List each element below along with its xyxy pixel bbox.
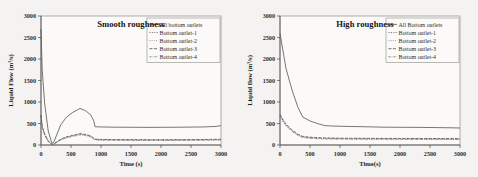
- legend-label: All bottom outlets: [160, 22, 204, 28]
- x-tick-label: 1500: [125, 150, 137, 157]
- y-tick-label: 2000: [24, 55, 36, 62]
- y-axis-title: Liquid flow (m³/s): [246, 55, 254, 106]
- x-tick-label: 2000: [394, 150, 406, 157]
- y-tick-label: 3000: [24, 12, 36, 19]
- chart-panel-smooth: 0500100015002000250030000500100015002000…: [0, 0, 239, 177]
- x-tick-label: 0: [39, 150, 42, 157]
- x-tick-label: 500: [305, 150, 314, 157]
- chart-panel-high: 0500100015002000250030000500100015002000…: [239, 0, 478, 177]
- x-axis-title: Time(s): [359, 160, 381, 168]
- high-roughness-chart: 0500100015002000250030000500100015002000…: [239, 0, 478, 177]
- y-tick-label: 0: [33, 141, 36, 148]
- legend-label: Bottom outlet-3: [160, 46, 198, 52]
- legend-label: Bottom outlet-1: [399, 30, 437, 36]
- x-tick-label: 2500: [424, 150, 436, 157]
- y-tick-label: 1500: [263, 77, 275, 84]
- legend-label: Bottom outlet-3: [399, 46, 437, 52]
- legend-label: Bottom outlet-4: [399, 54, 437, 60]
- y-tick-label: 3000: [263, 12, 275, 19]
- x-tick-label: 3000: [215, 150, 227, 157]
- x-tick-label: 0: [278, 150, 281, 157]
- y-tick-label: 1000: [263, 98, 275, 105]
- x-tick-label: 500: [66, 150, 75, 157]
- legend-label: All Bottom outlets: [399, 22, 444, 28]
- x-tick-label: 1500: [364, 150, 376, 157]
- legend-label: Bottom outlet-1: [160, 30, 198, 36]
- legend-label: Bottom outlet-2: [160, 38, 198, 44]
- figure-container: 0500100015002000250030000500100015002000…: [0, 0, 478, 177]
- y-tick-label: 0: [272, 141, 275, 148]
- y-tick-label: 2000: [263, 55, 275, 62]
- legend-label: Bottom outlet-4: [160, 54, 198, 60]
- x-tick-label: 1000: [334, 150, 346, 157]
- y-tick-label: 1500: [24, 77, 36, 84]
- x-tick-label: 2500: [185, 150, 197, 157]
- y-tick-label: 1000: [24, 98, 36, 105]
- chart-title-high: High roughness: [336, 19, 394, 29]
- smooth-roughness-chart: 0500100015002000250030000500100015002000…: [0, 0, 239, 177]
- legend-high: All Bottom outletsBottom outlet-1Bottom …: [386, 18, 459, 63]
- x-tick-label: 2000: [155, 150, 167, 157]
- y-axis-title: Liquid Flow (m³/s): [7, 54, 15, 107]
- chart-title-smooth: Smooth roughness: [97, 19, 165, 29]
- x-tick-label: 1000: [95, 150, 107, 157]
- x-axis-title: Time (s): [119, 160, 142, 168]
- x-tick-label: 3000: [454, 150, 466, 157]
- y-tick-label: 2500: [24, 34, 36, 41]
- y-tick-label: 500: [27, 120, 36, 127]
- y-tick-label: 2500: [263, 34, 275, 41]
- legend-label: Bottom outlet-2: [399, 38, 437, 44]
- y-tick-label: 500: [266, 120, 275, 127]
